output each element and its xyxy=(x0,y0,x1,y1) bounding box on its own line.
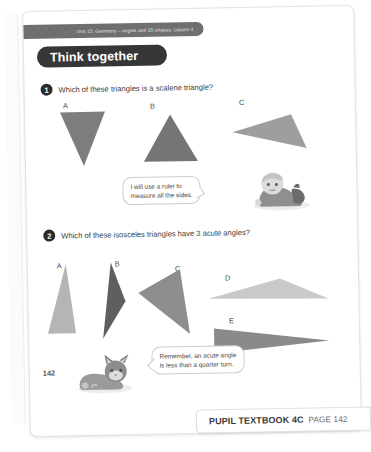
speech-bubble-2-tail xyxy=(147,358,160,371)
unit-header-strip: Unit 15: Geometry – angles and 2D shapes… xyxy=(22,22,203,39)
speech-bubble-1: I will use a ruler to measure all the si… xyxy=(122,176,201,205)
speech-bubble-2: Remember, an acute angle is less than a … xyxy=(151,345,244,375)
question-1-text: Which of these triangles is a scalene tr… xyxy=(58,82,213,94)
q2-shape-label-c: C xyxy=(175,264,181,273)
q2-triangle-c xyxy=(138,269,190,335)
unit-header-label: Unit 15: Geometry – angles and 2D shapes… xyxy=(77,26,194,33)
q1-shape-label-a: A xyxy=(63,101,68,110)
question-1: 1 Which of these triangles is a scalene … xyxy=(40,81,213,96)
section-banner-label: Think together xyxy=(50,48,138,64)
q2-shape-label-d: D xyxy=(225,273,231,282)
q2-triangle-b xyxy=(102,262,126,338)
q1-triangle-a xyxy=(60,112,106,167)
speech-bubble-2-line-2: is less than a quarter turn. xyxy=(160,359,237,369)
child-character-illustration xyxy=(247,165,312,212)
question-2: 2 Which of these isosceles triangles hav… xyxy=(43,226,250,242)
q1-triangle-b xyxy=(143,114,198,162)
q1-shape-label-c: C xyxy=(239,98,245,107)
page-number: 142 xyxy=(43,369,56,378)
q2-shape-label-b: B xyxy=(115,259,120,268)
bottom-banner-title: PUPIL TEXTBOOK 4C xyxy=(209,415,304,427)
q2-shape-label-a: A xyxy=(57,261,62,270)
question-2-number: 2 xyxy=(43,230,55,242)
speech-bubble-1-line-2: measure all the sides. xyxy=(130,190,192,200)
bottom-banner-page-label: PAGE 142 xyxy=(308,414,347,424)
textbook-page: Unit 15: Geometry – angles and 2D shapes… xyxy=(22,5,362,437)
cat-character-illustration xyxy=(73,351,136,394)
q2-triangle-a xyxy=(47,264,76,334)
question-1-number: 1 xyxy=(40,84,52,96)
q2-shape-label-e: E xyxy=(229,316,234,325)
q1-shape-label-b: B xyxy=(150,102,155,111)
section-banner: Think together xyxy=(37,44,167,67)
question-2-text: Which of these isosceles triangles have … xyxy=(61,227,250,239)
bottom-banner: PUPIL TEXTBOOK 4C PAGE 142 xyxy=(196,406,371,433)
speech-bubble-1-tail xyxy=(192,187,205,199)
q1-triangle-c xyxy=(232,114,307,149)
